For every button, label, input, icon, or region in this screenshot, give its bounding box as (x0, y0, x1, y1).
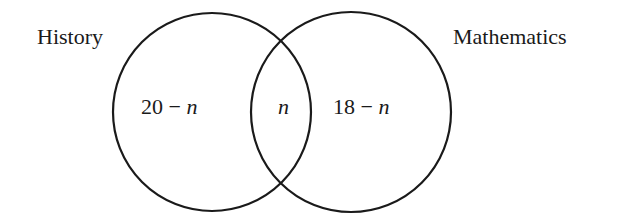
mathematics-only-region: 18 − n (333, 94, 389, 119)
intersection-region: n (278, 94, 289, 119)
history-only-number: 20 − (141, 94, 186, 119)
mathematics-only-number: 18 − (333, 94, 378, 119)
history-only-region: 20 − n (141, 94, 197, 119)
mathematics-only-variable: n (378, 94, 389, 119)
venn-diagram: History Mathematics 20 − n n 18 − n (0, 0, 634, 217)
history-label: History (37, 24, 103, 49)
mathematics-label: Mathematics (453, 24, 567, 49)
history-only-variable: n (186, 94, 197, 119)
